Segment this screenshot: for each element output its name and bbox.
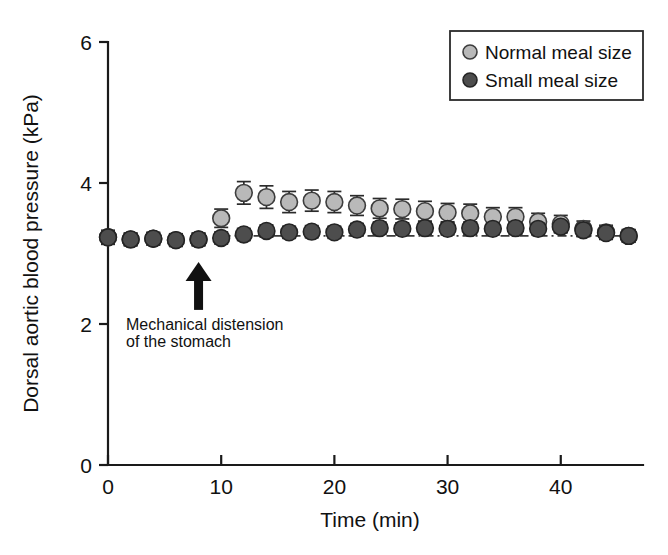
distension-arrow-head: [186, 262, 212, 281]
y-tick-label-6: 6: [80, 31, 92, 54]
datapoint-normal-18: [303, 192, 320, 209]
legend-marker-small: [463, 73, 477, 87]
datapoint-normal-10: [213, 210, 230, 227]
x-tick-label-30: 30: [436, 475, 459, 498]
legend-marker-normal: [463, 45, 477, 59]
distension-annotation-line1: Mechanical distension: [126, 316, 283, 333]
datapoint-normal-24: [371, 200, 388, 217]
datapoint-small-6: [168, 232, 185, 249]
chart-canvas: 0246010203040Time (min)Dorsal aortic blo…: [0, 0, 668, 555]
datapoint-small-32: [462, 220, 479, 237]
x-tick-label-20: 20: [323, 475, 346, 498]
y-tick-label-0: 0: [80, 454, 92, 477]
datapoint-small-22: [349, 221, 366, 238]
datapoint-normal-16: [281, 194, 298, 211]
datapoint-small-40: [552, 218, 569, 235]
datapoint-small-28: [417, 220, 434, 237]
x-tick-label-10: 10: [210, 475, 233, 498]
datapoint-small-36: [507, 220, 524, 237]
datapoint-small-38: [530, 220, 547, 237]
datapoint-normal-12: [235, 184, 252, 201]
figure-container: 0246010203040Time (min)Dorsal aortic blo…: [0, 0, 668, 555]
datapoint-normal-26: [394, 201, 411, 218]
datapoint-normal-20: [326, 194, 343, 211]
datapoint-small-0: [100, 229, 117, 246]
datapoint-small-14: [258, 223, 275, 240]
datapoint-small-20: [326, 224, 343, 241]
distension-arrow-shaft: [194, 278, 203, 310]
datapoint-small-42: [575, 222, 592, 239]
distension-annotation-line2: of the stomach: [126, 333, 231, 350]
datapoint-small-34: [484, 220, 501, 237]
datapoint-small-12: [235, 226, 252, 243]
legend-label-normal: Normal meal size: [485, 42, 632, 63]
datapoint-small-10: [213, 230, 230, 247]
datapoint-normal-22: [349, 197, 366, 214]
y-tick-label-4: 4: [80, 172, 92, 195]
datapoint-normal-28: [417, 203, 434, 220]
datapoint-small-26: [394, 220, 411, 237]
datapoint-small-2: [122, 231, 139, 248]
datapoint-small-46: [620, 227, 637, 244]
y-axis-title: Dorsal aortic blood pressure (kPa): [19, 94, 42, 413]
x-tick-label-40: 40: [549, 475, 572, 498]
datapoint-small-16: [281, 224, 298, 241]
datapoint-normal-14: [258, 189, 275, 206]
datapoint-small-30: [439, 220, 456, 237]
x-tick-label-0: 0: [102, 475, 114, 498]
datapoint-small-44: [598, 225, 615, 242]
datapoint-small-4: [145, 230, 162, 247]
y-tick-label-2: 2: [80, 313, 92, 336]
datapoint-small-18: [303, 223, 320, 240]
datapoint-small-24: [371, 220, 388, 237]
datapoint-small-8: [190, 231, 207, 248]
datapoint-normal-30: [439, 204, 456, 221]
x-axis-title: Time (min): [320, 508, 420, 531]
legend-label-small: Small meal size: [485, 70, 618, 91]
